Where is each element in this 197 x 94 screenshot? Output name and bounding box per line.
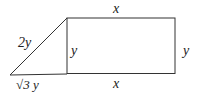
label-rect-top: x <box>112 1 120 16</box>
triangle-base-line <box>10 74 67 75</box>
diagram: x x y y 2y √3 y <box>0 0 197 94</box>
label-hypotenuse: 2y <box>18 35 32 50</box>
label-shared-side: y <box>69 43 78 58</box>
rectangle <box>67 18 175 74</box>
label-rect-right: y <box>181 43 190 58</box>
label-rect-bottom: x <box>112 76 120 91</box>
label-triangle-base: √3 y <box>16 77 39 92</box>
